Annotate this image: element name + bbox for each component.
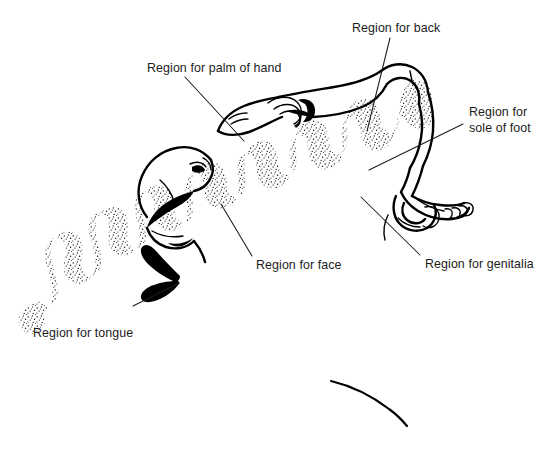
lip-line xyxy=(152,231,183,237)
toe-4 xyxy=(444,209,452,219)
label-palm-of-hand: Region for palm of hand xyxy=(147,61,282,75)
label-sole-of-foot-line2: sole of foot xyxy=(469,121,531,135)
hand-wrist-crease-2 xyxy=(231,119,248,124)
homunculus-figure: Region for palm of hand Region for back … xyxy=(0,0,554,474)
leg-outer-outline xyxy=(412,166,423,196)
neck-outline xyxy=(194,241,205,262)
cortical-band-stipple xyxy=(23,88,433,316)
leader-face xyxy=(221,204,252,256)
leg-inner-outline xyxy=(401,168,410,192)
leader-palm-of-hand xyxy=(185,77,244,141)
band-trailing-tail xyxy=(331,381,407,426)
label-genitalia: Region for genitalia xyxy=(425,257,534,271)
foot-figure xyxy=(394,166,474,231)
lower-foot-outline xyxy=(394,196,436,231)
label-sole-of-foot-line1: Region for xyxy=(469,105,527,119)
genitalia-contour xyxy=(384,215,388,240)
arm-upper-outline xyxy=(279,71,381,97)
label-tongue: Region for tongue xyxy=(33,326,133,340)
label-back: Region for back xyxy=(352,21,441,35)
hand-lower-outline xyxy=(218,117,282,135)
tongue-figure xyxy=(141,245,180,302)
genitalia-figure xyxy=(384,215,388,240)
label-face: Region for face xyxy=(256,258,342,272)
diagram-canvas: Region for palm of hand Region for back … xyxy=(0,0,554,474)
